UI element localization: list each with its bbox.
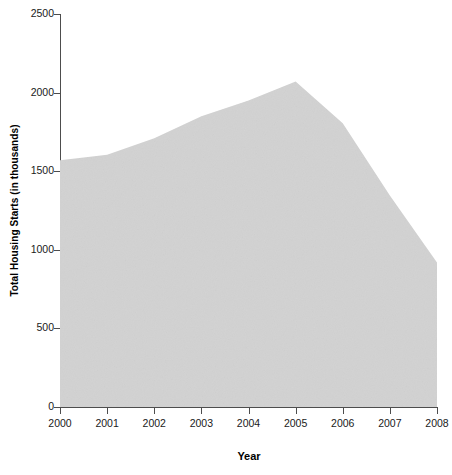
- x-tick-mark-2004: [249, 408, 250, 414]
- housing-starts-area-chart: Total Housing Starts (in thousands) 0500…: [0, 0, 452, 475]
- x-axis-tick-labels: 200020012002200320042005200620072008: [0, 418, 452, 434]
- x-tick-label-2001: 2001: [84, 418, 130, 430]
- x-tick-mark-2000: [60, 408, 61, 414]
- y-tick-label-1500: 1500: [18, 165, 54, 176]
- x-tick-mark-2002: [154, 408, 155, 414]
- x-tick-label-2002: 2002: [131, 418, 177, 430]
- x-tick-label-2000: 2000: [37, 418, 83, 430]
- plot-area: [60, 14, 437, 407]
- x-tick-mark-2001: [107, 408, 108, 414]
- x-tick-mark-2005: [296, 408, 297, 414]
- x-axis-title: Year: [60, 450, 438, 462]
- x-tick-mark-2003: [201, 408, 202, 414]
- x-tick-mark-2007: [390, 408, 391, 414]
- x-tick-label-2005: 2005: [273, 418, 319, 430]
- y-tick-label-500: 500: [18, 322, 54, 333]
- y-tick-label-2500: 2500: [18, 8, 54, 19]
- y-tick-label-1000: 1000: [18, 244, 54, 255]
- x-tick-label-2004: 2004: [226, 418, 272, 430]
- x-tick-label-2006: 2006: [320, 418, 366, 430]
- x-tick-label-2008: 2008: [414, 418, 452, 430]
- x-tick-label-2007: 2007: [367, 418, 413, 430]
- x-tick-mark-2006: [343, 408, 344, 414]
- x-tick-label-2003: 2003: [178, 418, 224, 430]
- area-series-svg: [60, 14, 437, 407]
- area-fill-path: [60, 82, 437, 407]
- y-tick-label-2000: 2000: [18, 87, 54, 98]
- x-tick-mark-2008: [437, 408, 438, 414]
- y-tick-label-0: 0: [18, 401, 54, 412]
- y-axis-tick-labels: 05001000150020002500: [16, 0, 54, 475]
